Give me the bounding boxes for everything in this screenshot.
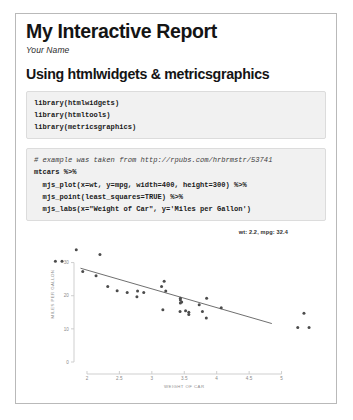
- data-point[interactable]: [179, 310, 182, 313]
- x-tick-label: 2: [86, 376, 89, 381]
- data-point[interactable]: [163, 280, 166, 283]
- data-point[interactable]: [61, 260, 64, 263]
- y-tick-label: 30: [64, 261, 70, 266]
- scatter-chart[interactable]: 0102030MILES PER GALLON22.533.544.55WEIG…: [26, 240, 326, 392]
- code-line: library(htmltools): [34, 109, 318, 121]
- code-line: mjs_plot(x=wt, y=mpg, width=400, height=…: [34, 179, 318, 191]
- data-point[interactable]: [75, 248, 78, 251]
- data-point[interactable]: [308, 326, 311, 329]
- code-comment-line: # example was taken from http://rpubs.co…: [34, 154, 318, 166]
- x-axis-title: WEIGHT OF CAR: [164, 384, 204, 389]
- author-name: Your Name: [26, 45, 326, 55]
- y-tick-label: 0: [66, 360, 69, 365]
- data-point[interactable]: [161, 308, 164, 311]
- data-point[interactable]: [106, 285, 109, 288]
- x-tick-label: 5: [280, 376, 283, 381]
- code-line: library(htmlwidgets): [34, 97, 318, 109]
- x-tick-label: 3: [151, 376, 154, 381]
- report-page-frame: My Interactive Report Your Name Using ht…: [15, 13, 337, 404]
- data-point[interactable]: [198, 303, 201, 306]
- code-line: mjs_point(least_squares=TRUE) %>%: [34, 191, 318, 203]
- data-point[interactable]: [136, 290, 139, 293]
- x-tick-label: 4.5: [246, 376, 253, 381]
- code-line: library(metricsgraphics): [34, 121, 318, 133]
- data-point[interactable]: [54, 260, 57, 263]
- section-heading: Using htmlwidgets & metricsgraphics: [26, 67, 326, 83]
- data-point[interactable]: [160, 285, 163, 288]
- data-point[interactable]: [296, 326, 299, 329]
- code-line: mtcars %>%: [34, 166, 318, 178]
- data-point[interactable]: [220, 306, 223, 309]
- data-point[interactable]: [142, 291, 145, 294]
- y-axis-title: MILES PER GALLON: [50, 270, 55, 319]
- data-point[interactable]: [126, 291, 129, 294]
- data-point[interactable]: [164, 290, 167, 293]
- data-point[interactable]: [95, 275, 98, 278]
- code-block-library-imports: library(htmlwidgets)library(htmltools)li…: [26, 91, 326, 140]
- x-tick-label: 3.5: [181, 376, 188, 381]
- data-point[interactable]: [135, 295, 138, 298]
- data-point[interactable]: [187, 311, 190, 314]
- document-body: My Interactive Report Your Name Using ht…: [16, 14, 336, 397]
- metricsgraphics-widget[interactable]: wt: 2.2, mpg: 32.4 0102030MILES PER GALL…: [26, 229, 326, 397]
- y-tick-label: 10: [64, 327, 70, 332]
- data-point[interactable]: [205, 297, 208, 300]
- data-point[interactable]: [179, 297, 182, 300]
- data-point[interactable]: [205, 317, 208, 320]
- chart-plot-area: 0102030MILES PER GALLON22.533.544.55WEIG…: [50, 248, 311, 389]
- data-point[interactable]: [179, 302, 182, 305]
- y-tick-label: 20: [64, 294, 70, 299]
- code-line: mjs_labs(x="Weight of Car", y='Miles per…: [34, 203, 318, 215]
- data-point[interactable]: [302, 312, 305, 315]
- data-point[interactable]: [116, 289, 119, 292]
- page-title: My Interactive Report: [26, 21, 326, 43]
- data-point[interactable]: [98, 253, 101, 256]
- data-point[interactable]: [81, 270, 84, 273]
- data-point[interactable]: [201, 310, 204, 313]
- least-squares-line: [80, 268, 271, 323]
- chart-tooltip: wt: 2.2, mpg: 32.4: [239, 229, 288, 235]
- code-block-plot-code: # example was taken from http://rpubs.co…: [26, 148, 326, 221]
- x-tick-label: 2.5: [116, 376, 123, 381]
- data-point[interactable]: [184, 309, 187, 312]
- x-tick-label: 4: [215, 376, 218, 381]
